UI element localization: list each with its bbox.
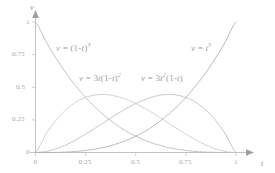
y-tick-label-1: 1 — [26, 19, 30, 26]
curve-2 — [36, 94, 237, 152]
curve-label-b3: v = t3 — [191, 44, 211, 53]
y-tick-label-0-75: 0.75 — [12, 51, 25, 58]
chart-canvas — [0, 0, 275, 173]
y-tick-label-0: 0 — [26, 149, 30, 156]
x-axis-arrow-icon — [246, 149, 254, 156]
x-axis-name: t — [261, 159, 263, 168]
curve-label-b1: v = 3t(1-t)2 — [79, 74, 121, 83]
curve-label-b2-eq: = 3 — [145, 73, 160, 83]
curve-label-b0: v = (1-t)3 — [56, 44, 91, 53]
curve-label-b2-open: (1- — [166, 73, 177, 83]
curve-label-b2-close: ) — [180, 73, 183, 83]
curve-label-b0-exponent: 3 — [87, 42, 90, 48]
x-tick-label-1: 1 — [234, 159, 238, 166]
x-tick-label-0-25: 0.25 — [79, 159, 92, 166]
y-tick-label-0-5: 0.5 — [16, 84, 25, 91]
curve-label-b3-eq: = — [195, 43, 205, 53]
y-axis-name: v — [30, 3, 34, 12]
curve-label-b1-exponent: 2 — [118, 72, 121, 78]
x-tick-marks — [36, 153, 237, 157]
curve-label-b1-open: (1- — [101, 73, 112, 83]
x-tick-label-0: 0 — [34, 159, 38, 166]
curve-3 — [36, 22, 237, 153]
curve-label-b0-eq: = (1- — [60, 43, 81, 53]
x-tick-label-0-5: 0.5 — [131, 159, 140, 166]
x-tick-label-0-75: 0.75 — [179, 159, 192, 166]
curve-label-b2: v = 3t2(1-t) — [141, 74, 183, 83]
curve-label-b3-exponent: 3 — [208, 42, 211, 48]
y-tick-label-0-25: 0.25 — [12, 116, 25, 123]
y-tick-marks — [32, 22, 36, 153]
curve-group — [36, 22, 237, 153]
curve-0 — [36, 22, 237, 153]
bernstein-basis-chart: v t 1 0.25 0.5 0.75 0 0 0.25 0.5 0.75 1 … — [0, 0, 275, 173]
curve-label-b1-eq: = 3 — [83, 73, 98, 83]
